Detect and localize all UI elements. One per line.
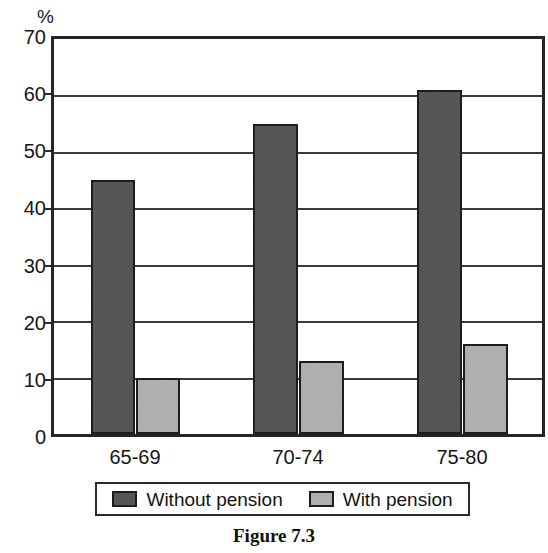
y-axis-unit-label: % [26, 7, 54, 26]
dark-swatch-icon [112, 491, 137, 507]
y-tick-label-70: 70 [6, 27, 46, 47]
y-tick-label-60: 60 [6, 84, 46, 104]
gridline-50 [54, 152, 542, 154]
x-tick-label-70-74: 70-74 [228, 447, 368, 467]
legend-entry-with-pension: With pension [309, 490, 453, 509]
x-tick-label-75-80: 75-80 [392, 447, 532, 467]
y-tick-label-20: 20 [6, 313, 46, 333]
bar-with-pension-65-69 [136, 378, 180, 434]
plot-area [51, 36, 545, 437]
figure-container: % 70 60 50 40 30 20 10 0 65-69 70-74 [0, 0, 548, 553]
light-swatch-icon [309, 491, 334, 507]
bar-without-pension-70-74 [253, 124, 298, 434]
y-tick-label-50: 50 [6, 141, 46, 161]
bar-without-pension-75-80 [417, 90, 462, 434]
y-tick-label-10: 10 [6, 370, 46, 390]
legend-entry-without-pension: Without pension [112, 490, 282, 509]
legend-label-without-pension: Without pension [146, 490, 282, 509]
y-tick-label-0: 0 [6, 427, 46, 447]
x-tick-label-65-69: 65-69 [65, 447, 205, 467]
bar-with-pension-75-80 [463, 344, 508, 434]
figure-caption: Figure 7.3 [0, 526, 548, 546]
y-tick-label-40: 40 [6, 198, 46, 218]
bar-without-pension-65-69 [91, 180, 135, 434]
bar-with-pension-70-74 [299, 361, 344, 434]
chart-legend: Without pension With pension [95, 482, 470, 516]
legend-label-with-pension: With pension [343, 490, 453, 509]
gridline-60 [54, 95, 542, 97]
y-tick-label-30: 30 [6, 256, 46, 276]
